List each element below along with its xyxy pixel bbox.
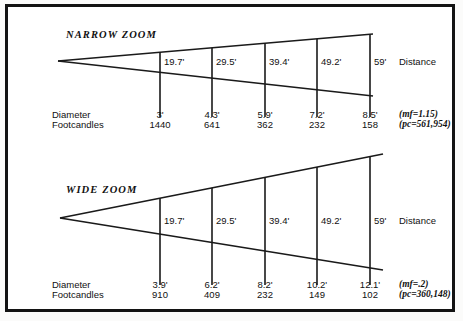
wide-distance-axis-label: Distance [399, 215, 436, 226]
wide-distance-label-5: 59' [374, 215, 386, 226]
wide-distance-label-4: 49.2' [321, 215, 341, 226]
wide-zoom-title: WIDE ZOOM [66, 184, 137, 195]
wide-distance-label-2: 29.5' [216, 215, 236, 226]
wide-footcandles-value-2: 409 [204, 289, 220, 300]
wide-zoom-panel: WIDE ZOOM 19.7' 29.5' 39.4' 49.2' 59' Di… [8, 7, 452, 309]
wide-distance-label-3: 39.4' [269, 215, 289, 226]
wide-beam-drawing [8, 7, 458, 315]
wide-footcandles-value-4: 149 [309, 289, 325, 300]
wide-footcandles-value-1: 910 [152, 289, 168, 300]
wide-multiplier-note: (mf=.2) [399, 279, 428, 289]
wide-distance-label-1: 19.7' [164, 215, 184, 226]
figure-border: NARROW ZOOM 19.7' 29.5' 39.4' 49.2' 59' … [5, 4, 455, 312]
wide-footcandles-value-5: 102 [362, 289, 378, 300]
wide-footcandles-row-label: Footcandles [52, 289, 104, 300]
wide-peak-candela-note: (pc=360,148) [399, 289, 451, 299]
figure-root: NARROW ZOOM 19.7' 29.5' 39.4' 49.2' 59' … [0, 0, 463, 321]
wide-footcandles-value-3: 232 [257, 289, 273, 300]
